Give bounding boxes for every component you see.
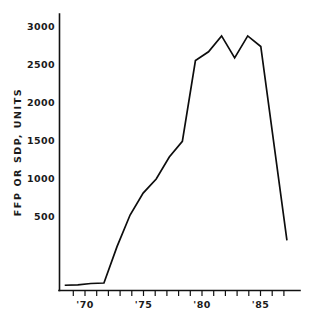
- x-tick-marks: [73, 291, 284, 297]
- y-tick-label-500: 500: [34, 211, 55, 222]
- y-tick-label-2000: 2000: [27, 97, 55, 108]
- chart-figure: 3000 2500 2000 1500 1000 500: [0, 0, 312, 321]
- line-chart-canvas: 3000 2500 2000 1500 1000 500: [0, 0, 312, 321]
- y-axis-title: FFP OR SDP, UNITS: [12, 88, 23, 217]
- y-tick-label-1000: 1000: [27, 173, 55, 184]
- y-tick-label-1500: 1500: [27, 135, 55, 146]
- x-tick-label-85: '85: [252, 299, 269, 310]
- y-tick-label-2500: 2500: [27, 59, 55, 70]
- x-tick-label-75: '75: [135, 299, 152, 310]
- data-series-line: [65, 36, 287, 285]
- x-tick-label-80: '80: [193, 299, 210, 310]
- x-tick-label-70: '70: [76, 299, 93, 310]
- y-tick-label-3000: 3000: [27, 21, 55, 32]
